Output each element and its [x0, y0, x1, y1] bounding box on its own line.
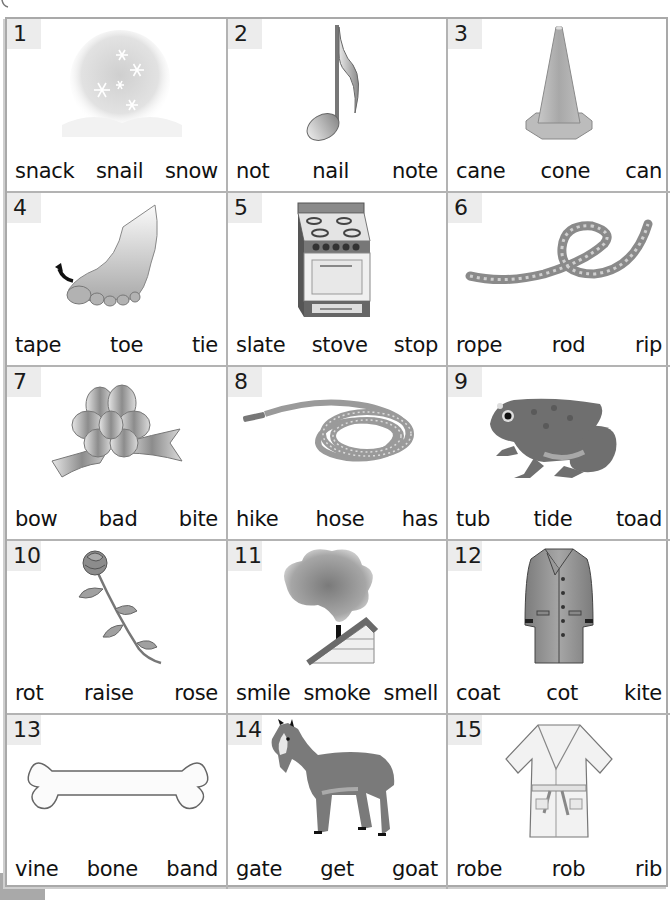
worksheet-item-11: 11 smile smoke smell [228, 541, 448, 715]
worksheet-item-13: 13 vine bone band [7, 715, 228, 889]
word-choice[interactable]: bow [15, 507, 57, 531]
word-choices: rope rod rip [456, 333, 662, 357]
word-choice[interactable]: stove [312, 333, 368, 357]
goat-icon [228, 719, 446, 843]
word-choice[interactable]: gate [236, 857, 282, 881]
rose-icon [7, 545, 226, 669]
word-choice[interactable]: slate [236, 333, 285, 357]
word-choices: gate get goat [236, 857, 438, 881]
worksheet-item-2: 2 not nail note [228, 19, 448, 193]
rope-icon [448, 197, 670, 321]
word-choice[interactable]: vine [15, 857, 58, 881]
word-choices: hike hose has [236, 507, 438, 531]
word-choices: rot raise rose [15, 681, 218, 705]
word-choice[interactable]: rip [635, 333, 662, 357]
worksheet-item-12: 12 coat cot kite [448, 541, 670, 715]
snowflakes-icon [7, 23, 226, 147]
word-choices: cane cone can [456, 159, 662, 183]
word-choice[interactable]: rope [456, 333, 502, 357]
word-choice[interactable]: tie [192, 333, 218, 357]
worksheet-item-8: 8 hike hose has [228, 367, 448, 541]
ribbon-bow-icon [7, 371, 226, 495]
word-choice[interactable]: nail [312, 159, 349, 183]
word-choice[interactable]: smile [236, 681, 291, 705]
word-choice[interactable]: coat [456, 681, 500, 705]
word-choice[interactable]: tape [15, 333, 61, 357]
word-choices: smile smoke smell [236, 681, 438, 705]
word-choice[interactable]: kite [624, 681, 662, 705]
word-choice[interactable]: raise [84, 681, 134, 705]
word-choices: tape toe tie [15, 333, 218, 357]
word-choice[interactable]: has [402, 507, 438, 531]
word-choice[interactable]: snow [165, 159, 218, 183]
word-choice[interactable]: rob [552, 857, 585, 881]
word-choice[interactable]: snack [15, 159, 74, 183]
bathrobe-icon [448, 719, 670, 843]
word-choice[interactable]: can [625, 159, 662, 183]
word-choice[interactable]: not [236, 159, 270, 183]
word-choice[interactable]: toe [110, 333, 143, 357]
worksheet-item-14: 14 gate get goat [228, 715, 448, 889]
worksheet-item-15: 15 robe rob rib [448, 715, 670, 889]
worksheet-item-1: 1 snack snail snow [7, 19, 228, 193]
word-choice[interactable]: cane [456, 159, 505, 183]
worksheet-item-7: 7 bow bad bite [7, 367, 228, 541]
word-choice[interactable]: rose [174, 681, 218, 705]
word-choices: robe rob rib [456, 857, 662, 881]
worksheet-item-4: 4 tape toe tie [7, 193, 228, 367]
word-choice[interactable]: rot [15, 681, 43, 705]
music-note-icon [228, 23, 446, 147]
word-choices: not nail note [236, 159, 438, 183]
word-choices: coat cot kite [456, 681, 662, 705]
word-choices: snack snail snow [15, 159, 218, 183]
page-corner-mark [0, 0, 14, 8]
word-choices: slate stove stop [236, 333, 438, 357]
word-choice[interactable]: stop [394, 333, 438, 357]
word-choice[interactable]: bad [99, 507, 138, 531]
chimney-smoke-icon [228, 545, 446, 669]
word-choice[interactable]: hose [316, 507, 365, 531]
traffic-cone-icon [448, 23, 670, 147]
word-choice[interactable]: robe [456, 857, 502, 881]
word-choice[interactable]: rod [552, 333, 585, 357]
word-choice[interactable]: tub [456, 507, 490, 531]
word-choice[interactable]: band [166, 857, 218, 881]
word-choice[interactable]: toad [616, 507, 662, 531]
word-choice[interactable]: hike [236, 507, 278, 531]
worksheet-item-9: 9 tub tide toad [448, 367, 670, 541]
word-choice[interactable]: cot [546, 681, 578, 705]
worksheet-item-5: 5 slate stove [228, 193, 448, 367]
word-choice[interactable]: tide [533, 507, 572, 531]
worksheet-grid: 1 snack snail snow 2 [5, 17, 668, 887]
word-choice[interactable]: rib [635, 857, 662, 881]
worksheet-item-6: 6 rope rod rip [448, 193, 670, 367]
stove-icon [228, 197, 446, 321]
worksheet-item-3: 3 cane cone can [448, 19, 670, 193]
word-choices: tub tide toad [456, 507, 662, 531]
word-choice[interactable]: smell [384, 681, 439, 705]
word-choice[interactable]: snail [96, 159, 143, 183]
garden-hose-icon [228, 371, 446, 495]
word-choice[interactable]: bite [179, 507, 218, 531]
bone-icon [7, 719, 226, 843]
word-choices: bow bad bite [15, 507, 218, 531]
word-choice[interactable]: smoke [303, 681, 370, 705]
foot-toe-icon [7, 197, 226, 321]
word-choice[interactable]: note [392, 159, 438, 183]
coat-icon [448, 545, 670, 669]
word-choice[interactable]: get [320, 857, 354, 881]
word-choice[interactable]: goat [392, 857, 438, 881]
worksheet-item-10: 10 rot raise rose [7, 541, 228, 715]
word-choice[interactable]: bone [87, 857, 138, 881]
word-choice[interactable]: cone [541, 159, 590, 183]
word-choices: vine bone band [15, 857, 218, 881]
toad-icon [448, 371, 670, 495]
